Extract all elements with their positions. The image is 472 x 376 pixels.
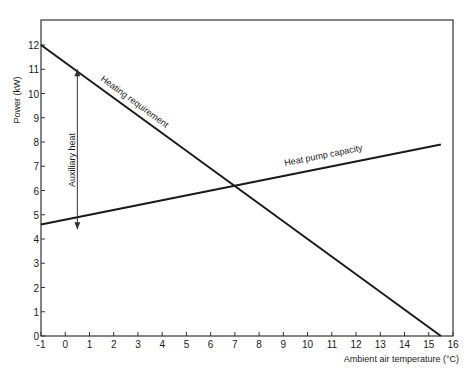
- y-tick-label: 8: [33, 137, 39, 148]
- plot-frame: [41, 20, 453, 336]
- chart: 0123456789101112 -1012345678910111213141…: [0, 0, 472, 376]
- x-tick-label: 13: [375, 339, 387, 350]
- x-axis-title: Ambient air temperature (°C): [344, 354, 459, 364]
- x-tick-label: -1: [37, 339, 46, 350]
- heat-pump-capacity-label: Heat pump capacity: [283, 142, 363, 167]
- y-tick-label: 7: [33, 161, 39, 172]
- x-tick-label: 3: [135, 339, 141, 350]
- x-tick-label: 11: [327, 339, 338, 350]
- x-tick-label: 14: [399, 339, 411, 350]
- series-line: [41, 45, 441, 336]
- y-tick-label: 10: [28, 89, 40, 100]
- y-tick-label: 12: [28, 40, 40, 51]
- x-axis: -1012345678910111213141516: [37, 332, 459, 350]
- y-tick-label: 5: [33, 210, 39, 221]
- x-tick-label: 12: [350, 339, 362, 350]
- y-axis: 0123456789101112: [28, 40, 45, 342]
- y-tick-label: 4: [33, 234, 39, 245]
- y-tick-label: 3: [33, 258, 39, 269]
- x-tick-label: 5: [184, 339, 190, 350]
- y-tick-label: 6: [33, 186, 39, 197]
- y-tick-label: 11: [29, 64, 40, 75]
- arrow-down-icon: [74, 222, 80, 229]
- x-tick-label: 2: [111, 339, 117, 350]
- x-tick-label: 1: [87, 339, 93, 350]
- heating-requirement-label: Heating requirement: [99, 74, 171, 131]
- x-tick-label: 7: [232, 339, 238, 350]
- series-line: [41, 144, 441, 224]
- series-lines: [41, 45, 441, 336]
- x-tick-label: 16: [447, 339, 459, 350]
- x-tick-label: 4: [159, 339, 165, 350]
- y-tick-label: 1: [33, 307, 39, 318]
- x-tick-label: 10: [302, 339, 314, 350]
- y-axis-title: Power (kW): [12, 76, 22, 123]
- x-tick-label: 8: [256, 339, 262, 350]
- y-tick-label: 9: [33, 113, 39, 124]
- x-tick-label: 6: [208, 339, 214, 350]
- x-tick-label: 0: [62, 339, 68, 350]
- x-tick-label: 15: [423, 339, 435, 350]
- auxiliary-heat-label: Auxiliary heat: [67, 132, 77, 187]
- x-tick-label: 9: [281, 339, 287, 350]
- y-tick-label: 2: [33, 283, 39, 294]
